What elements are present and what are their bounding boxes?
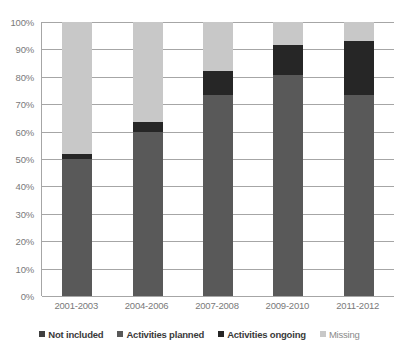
legend-item[interactable]: Missing bbox=[320, 329, 360, 340]
y-tick-label: 10% bbox=[16, 263, 34, 274]
bar-segment[interactable] bbox=[273, 45, 303, 75]
y-tick-label: 0% bbox=[21, 291, 34, 302]
legend-swatch-icon bbox=[117, 331, 123, 337]
stacked-bar[interactable] bbox=[62, 22, 92, 296]
legend-label: Missing bbox=[329, 329, 360, 340]
legend-swatch-icon bbox=[218, 331, 224, 337]
bar-segment[interactable] bbox=[62, 159, 92, 296]
y-tick-label: 70% bbox=[16, 99, 34, 110]
x-tick-label: 2007-2008 bbox=[182, 300, 252, 318]
bars-layer bbox=[42, 22, 394, 296]
bar-segment[interactable] bbox=[273, 22, 303, 45]
stacked-bar[interactable] bbox=[203, 22, 233, 296]
legend-item[interactable]: Not included bbox=[39, 329, 103, 340]
bar-group bbox=[42, 22, 112, 296]
legend-label: Not included bbox=[48, 329, 103, 340]
legend-label: Activities planned bbox=[126, 329, 204, 340]
bar-segment[interactable] bbox=[62, 22, 92, 154]
x-axis: 2001-20032004-20062007-20082009-20102011… bbox=[41, 300, 393, 318]
legend-swatch-icon bbox=[39, 331, 45, 337]
x-tick-label: 2009-2010 bbox=[252, 300, 322, 318]
bar-group bbox=[253, 22, 323, 296]
y-tick-label: 20% bbox=[16, 236, 34, 247]
bar-segment[interactable] bbox=[133, 22, 163, 122]
bar-segment[interactable] bbox=[344, 22, 374, 41]
gridline bbox=[42, 296, 394, 297]
plot-wrapper: 100%90%80%70%60%50%40%30%20%10%0% 2001-2… bbox=[0, 0, 399, 300]
y-tick-label: 30% bbox=[16, 208, 34, 219]
bar-segment[interactable] bbox=[344, 41, 374, 94]
chart-legend: Not includedActivities plannedActivities… bbox=[0, 326, 399, 342]
x-tick-label: 2001-2003 bbox=[41, 300, 111, 318]
y-tick-label: 60% bbox=[16, 126, 34, 137]
legend-swatch-icon bbox=[320, 331, 326, 337]
bar-segment[interactable] bbox=[133, 132, 163, 296]
bar-group bbox=[324, 22, 394, 296]
x-tick-label: 2011-2012 bbox=[323, 300, 393, 318]
bar-segment[interactable] bbox=[203, 71, 233, 94]
bar-segment[interactable] bbox=[203, 95, 233, 296]
legend-item[interactable]: Activities planned bbox=[117, 329, 204, 340]
stacked-bar[interactable] bbox=[344, 22, 374, 296]
y-tick-label: 100% bbox=[11, 17, 35, 28]
y-tick-label: 40% bbox=[16, 181, 34, 192]
plot-area bbox=[41, 22, 394, 296]
y-tick-label: 80% bbox=[16, 71, 34, 82]
y-tick-label: 50% bbox=[16, 154, 34, 165]
legend-label: Activities ongoing bbox=[227, 329, 306, 340]
stacked-bar-chart: 100%90%80%70%60%50%40%30%20%10%0% 2001-2… bbox=[0, 0, 399, 353]
bar-group bbox=[183, 22, 253, 296]
bar-segment[interactable] bbox=[344, 95, 374, 296]
x-tick-label: 2004-2006 bbox=[111, 300, 181, 318]
stacked-bar[interactable] bbox=[133, 22, 163, 296]
bar-segment[interactable] bbox=[133, 122, 163, 132]
y-axis: 100%90%80%70%60%50%40%30%20%10%0% bbox=[0, 22, 38, 296]
y-tick-label: 90% bbox=[16, 44, 34, 55]
legend-item[interactable]: Activities ongoing bbox=[218, 329, 306, 340]
bar-segment[interactable] bbox=[273, 75, 303, 296]
stacked-bar[interactable] bbox=[273, 22, 303, 296]
bar-group bbox=[112, 22, 182, 296]
bar-segment[interactable] bbox=[203, 22, 233, 71]
